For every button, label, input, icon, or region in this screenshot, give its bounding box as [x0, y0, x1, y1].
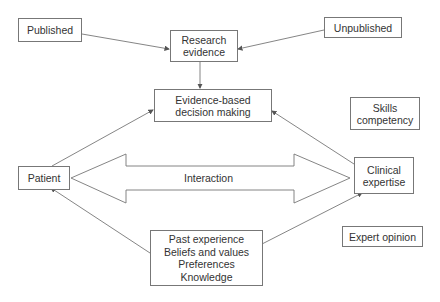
node-research-evidence: Research evidence: [170, 30, 238, 62]
node-expert-label: Expert opinion: [349, 231, 416, 243]
node-past-line1: Past experience: [169, 233, 244, 246]
edge-clinical-ebdm: [272, 111, 354, 164]
node-clinical-line1: Clinical: [367, 164, 401, 176]
node-unpublished: Unpublished: [324, 17, 402, 38]
node-past-experience: Past experience Beliefs and values Prefe…: [150, 230, 263, 286]
edge-past-patient: [51, 188, 150, 253]
node-patient-label: Patient: [28, 172, 61, 184]
edge-unpublished-research: [238, 30, 324, 49]
node-published: Published: [18, 18, 82, 42]
edge-published-research: [82, 34, 169, 49]
node-expert-opinion: Expert opinion: [342, 226, 423, 247]
node-past-line3: Preferences: [178, 258, 235, 271]
node-unpublished-label: Unpublished: [334, 22, 392, 34]
interaction-label: Interaction: [184, 172, 233, 184]
node-skills-line1: Skills: [373, 102, 398, 114]
node-skills-competency: Skills competency: [350, 97, 420, 130]
node-ebdm-line2: decision making: [175, 106, 250, 118]
node-evidence-based-decision-making: Evidence-based decision making: [154, 89, 272, 122]
node-research-line1: Research: [182, 34, 227, 46]
node-past-line4: Knowledge: [181, 271, 233, 284]
node-clinical-line2: expertise: [363, 176, 406, 188]
node-research-line2: evidence: [183, 46, 225, 58]
node-published-label: Published: [27, 24, 73, 36]
node-ebdm-line1: Evidence-based: [175, 94, 250, 106]
node-skills-line2: competency: [357, 114, 414, 126]
node-clinical-expertise: Clinical expertise: [354, 157, 414, 194]
edge-patient-ebdm: [52, 110, 153, 166]
node-patient: Patient: [18, 166, 70, 190]
node-past-line2: Beliefs and values: [164, 246, 249, 259]
